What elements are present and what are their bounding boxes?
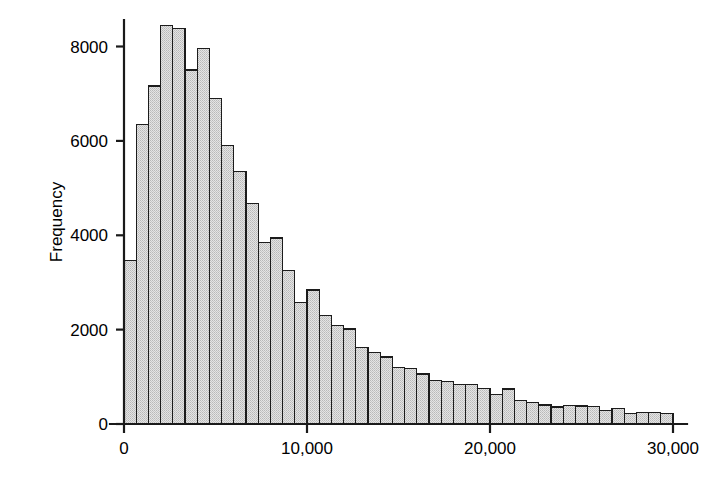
histogram-bar xyxy=(319,315,331,424)
histogram-bar xyxy=(466,384,478,424)
histogram-bar xyxy=(612,408,624,424)
histogram-chart: 02000400060008000 010,00020,00030,000 Fr… xyxy=(0,0,727,485)
histogram-bar xyxy=(478,389,490,424)
histogram-bar xyxy=(148,86,160,424)
y-tick-label: 0 xyxy=(99,415,108,434)
histogram-bar xyxy=(344,329,356,424)
histogram-bar xyxy=(551,407,563,424)
histogram-bar xyxy=(539,405,551,424)
chart-canvas: 02000400060008000 010,00020,00030,000 Fr… xyxy=(0,0,727,485)
histogram-bar xyxy=(283,270,295,424)
histogram-bar xyxy=(356,348,368,424)
histogram-bar xyxy=(246,203,258,424)
histogram-bar xyxy=(636,412,648,424)
histogram-bar xyxy=(441,382,453,424)
histogram-bar xyxy=(575,406,587,424)
histogram-bar xyxy=(502,389,514,424)
histogram-bar xyxy=(490,395,502,424)
histogram-bar xyxy=(624,413,636,424)
histogram-bar xyxy=(222,146,234,424)
y-axis-title: Frequency xyxy=(47,181,66,262)
histogram-bar xyxy=(258,243,270,424)
histogram-bar xyxy=(185,70,197,424)
histogram-bar xyxy=(661,414,673,424)
x-tick-label: 30,000 xyxy=(647,439,699,458)
histogram-bar xyxy=(136,124,148,424)
histogram-bar xyxy=(270,238,282,424)
histogram-bar xyxy=(209,98,221,424)
histogram-bar xyxy=(380,357,392,424)
histogram-bar xyxy=(600,410,612,424)
y-tick-label: 6000 xyxy=(70,132,108,151)
y-tick-label: 8000 xyxy=(70,38,108,57)
histogram-bar xyxy=(392,367,404,424)
histogram-bar xyxy=(453,385,465,424)
x-axis-ticks: 010,00020,00030,000 xyxy=(119,424,699,458)
histogram-bar xyxy=(173,29,185,424)
histogram-bar xyxy=(234,172,246,424)
histogram-bar xyxy=(331,325,343,424)
x-tick-label: 20,000 xyxy=(464,439,516,458)
histogram-bar xyxy=(649,413,661,424)
histogram-bar xyxy=(588,407,600,424)
histogram-bar xyxy=(368,352,380,424)
histogram-bar xyxy=(514,400,526,424)
histogram-bar xyxy=(417,374,429,424)
histogram-bar xyxy=(197,48,209,424)
x-tick-label: 0 xyxy=(119,439,128,458)
histogram-bar xyxy=(405,368,417,424)
histogram-bar xyxy=(563,406,575,424)
histogram-bar xyxy=(124,261,136,424)
histogram-bar xyxy=(295,303,307,424)
y-tick-label: 2000 xyxy=(70,321,108,340)
histogram-bar xyxy=(161,25,173,424)
histogram-bar xyxy=(527,402,539,424)
bars-group xyxy=(124,25,673,424)
histogram-bar xyxy=(307,290,319,424)
y-axis-ticks: 02000400060008000 xyxy=(70,38,124,435)
y-tick-label: 4000 xyxy=(70,226,108,245)
histogram-bar xyxy=(429,381,441,424)
x-tick-label: 10,000 xyxy=(281,439,333,458)
